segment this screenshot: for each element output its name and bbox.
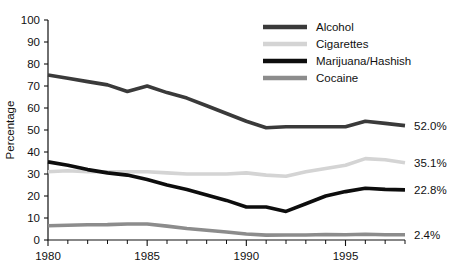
chart-legend: AlcoholCigarettesMarijuana/HashishCocain…: [263, 21, 411, 84]
end-label-cigarettes: 35.1%: [414, 157, 447, 169]
y-tick-label: 10: [27, 212, 40, 224]
x-tick-label: 1980: [35, 250, 61, 262]
y-tick-label: 40: [27, 146, 40, 158]
end-label-alcohol: 52.0%: [414, 120, 447, 132]
y-tick-label: 80: [27, 58, 40, 70]
line-chart: 0102030405060708090100 1980198519901995 …: [0, 0, 455, 268]
chart-axes: [48, 20, 405, 240]
y-tick-label: 30: [27, 168, 40, 180]
y-tick-label: 90: [27, 36, 40, 48]
x-tick-label: 1990: [234, 250, 260, 262]
end-label-marijuana-hashish: 22.8%: [414, 184, 447, 196]
y-tick-label: 50: [27, 124, 40, 136]
axis-lines: [48, 20, 405, 240]
y-axis-title: Percentage: [4, 101, 16, 160]
legend-label-cigarettes: Cigarettes: [316, 38, 369, 50]
legend-label-alcohol: Alcohol: [316, 21, 354, 33]
y-axis-ticks: 0102030405060708090100: [21, 14, 48, 246]
x-axis-ticks: 1980198519901995: [35, 240, 405, 262]
chart-series-lines: [48, 75, 405, 235]
legend-label-marijuana-hashish: Marijuana/Hashish: [316, 55, 411, 67]
series-line-cocaine: [48, 224, 405, 235]
y-tick-label: 100: [21, 14, 40, 26]
end-label-cocaine: 2.4%: [414, 229, 440, 241]
series-line-marijuana-hashish: [48, 162, 405, 212]
y-tick-label: 70: [27, 80, 40, 92]
series-end-labels: 52.0%35.1%22.8%2.4%: [414, 120, 447, 241]
y-tick-label: 20: [27, 190, 40, 202]
legend-label-cocaine: Cocaine: [316, 72, 358, 84]
y-tick-label: 0: [34, 234, 40, 246]
x-tick-label: 1985: [134, 250, 160, 262]
chart-container: 0102030405060708090100 1980198519901995 …: [0, 0, 455, 268]
x-tick-label: 1995: [333, 250, 359, 262]
y-tick-label: 60: [27, 102, 40, 114]
